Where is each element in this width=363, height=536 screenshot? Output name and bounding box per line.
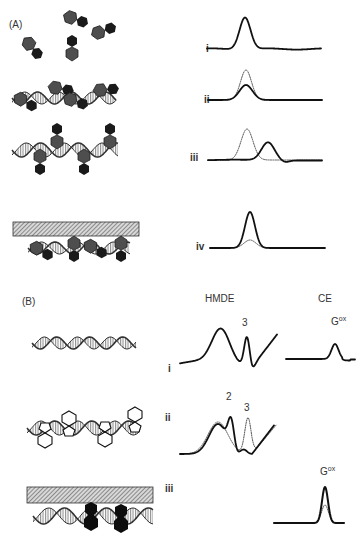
trace-b-iii-ce-dotted (274, 505, 344, 523)
trace-a-i-solid (207, 18, 321, 50)
figure-canvas (0, 0, 363, 536)
free-molecules (20, 9, 118, 62)
intercalator-molecule (89, 21, 118, 41)
trace-a-ii-dotted (208, 70, 322, 100)
trace-a-iii-solid (208, 142, 322, 162)
electrode-surface-b (27, 487, 153, 503)
trace-b-iii-ce-solid (274, 487, 344, 523)
dna-helix-b-i (32, 337, 136, 349)
intercalator-molecule (66, 35, 78, 61)
trace-b-i-hmde-solid (180, 329, 277, 367)
intercalator-molecule (20, 34, 46, 62)
intercalator-molecule (61, 9, 90, 29)
electrode-surface (13, 222, 139, 236)
trace-b-ii-hmde-solid (180, 417, 274, 454)
trace-a-iv-solid (210, 212, 325, 248)
trace-b-i-ce-solid (286, 344, 355, 361)
trace-a-ii-solid (208, 85, 322, 100)
dna-helix-a-iii (12, 143, 118, 157)
trace-a-iv-dotted (210, 240, 325, 248)
